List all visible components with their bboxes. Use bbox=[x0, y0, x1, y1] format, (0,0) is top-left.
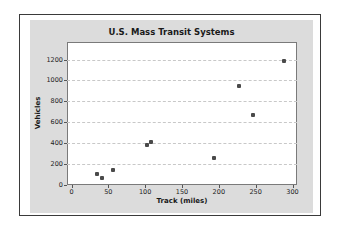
y-tick bbox=[64, 185, 67, 186]
x-tick-label: 100 bbox=[139, 188, 151, 196]
y-tick bbox=[64, 143, 67, 144]
x-axis-title: Track (miles) bbox=[67, 197, 297, 205]
x-tick-label: 150 bbox=[176, 188, 188, 196]
data-point bbox=[95, 172, 99, 176]
y-tick bbox=[64, 60, 67, 61]
y-tick-label: 800 bbox=[51, 97, 63, 105]
data-point bbox=[149, 140, 153, 144]
data-point bbox=[282, 59, 286, 63]
gridline bbox=[67, 80, 297, 81]
data-point bbox=[237, 84, 241, 88]
gridline bbox=[67, 122, 297, 123]
chart-title: U.S. Mass Transit Systems bbox=[30, 27, 313, 37]
y-tick-label: 0 bbox=[59, 181, 63, 189]
y-tick-label: 600 bbox=[51, 118, 63, 126]
y-tick-label: 1200 bbox=[46, 56, 63, 64]
y-tick-label: 200 bbox=[51, 160, 63, 168]
x-tick-label: 50 bbox=[104, 188, 112, 196]
gridline bbox=[67, 101, 297, 102]
data-point bbox=[212, 156, 216, 160]
gridline bbox=[67, 60, 297, 61]
x-tick-label: 250 bbox=[249, 188, 261, 196]
data-point bbox=[145, 143, 149, 147]
gridline bbox=[67, 143, 297, 144]
x-tick-label: 0 bbox=[69, 188, 73, 196]
y-tick bbox=[64, 164, 67, 165]
y-tick-label: 400 bbox=[51, 139, 63, 147]
data-point bbox=[100, 176, 104, 180]
data-point bbox=[111, 168, 115, 172]
y-tick bbox=[64, 101, 67, 102]
y-axis-title: Vehicles bbox=[34, 97, 42, 130]
y-tick-label: 1000 bbox=[46, 76, 63, 84]
x-tick-label: 300 bbox=[286, 188, 298, 196]
data-point bbox=[251, 113, 255, 117]
y-tick bbox=[64, 122, 67, 123]
x-tick-label: 200 bbox=[213, 188, 225, 196]
gridline bbox=[67, 164, 297, 165]
y-tick bbox=[64, 80, 67, 81]
